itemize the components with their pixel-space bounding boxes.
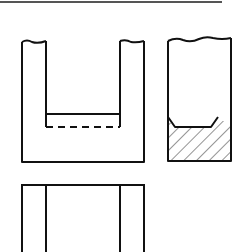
- front-left-break-line: [22, 41, 46, 43]
- front-outline: [22, 41, 144, 162]
- top-view: [22, 185, 144, 252]
- side-chamfer-line: [168, 117, 218, 127]
- side-break-line: [168, 37, 231, 41]
- side-view: [168, 37, 231, 161]
- top-view-outline: [22, 185, 144, 252]
- front-right-break-line: [120, 40, 144, 42]
- front-view: [22, 40, 144, 162]
- technical-drawing: [0, 0, 237, 252]
